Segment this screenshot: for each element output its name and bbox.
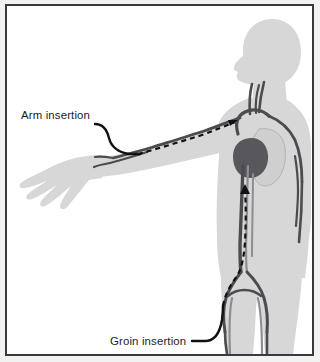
groin-leader-line <box>192 305 223 341</box>
heart-shape <box>233 138 268 178</box>
body-silhouette <box>20 19 311 354</box>
arm-leader-line <box>95 124 140 154</box>
vena-cava <box>252 174 253 256</box>
left-hand-shape <box>20 155 102 209</box>
radial-artery <box>95 157 113 158</box>
label-arm-insertion: Arm insertion <box>21 109 90 121</box>
figure-root: Arm insertion Groin insertion <box>0 0 320 362</box>
label-groin-insertion: Groin insertion <box>110 335 186 347</box>
figure-frame: Arm insertion Groin insertion <box>5 4 314 356</box>
anatomy-illustration: Arm insertion Groin insertion <box>7 6 312 354</box>
